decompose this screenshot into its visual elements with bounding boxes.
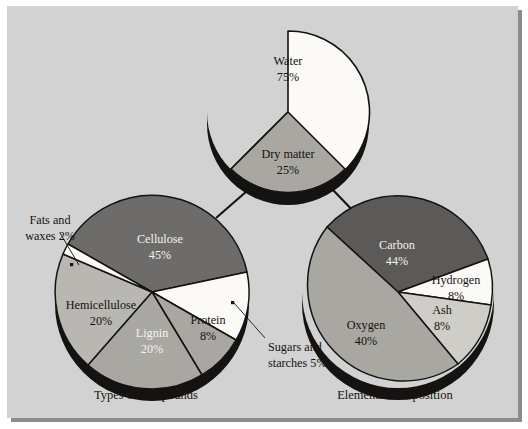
- pie-elemental-composition: Carbon 44% Hydrogen 8% Ash 8% Oxygen 40%: [302, 196, 494, 400]
- caption-left: Types of compounds: [94, 388, 198, 402]
- pie-diagram-canvas: Water 75% Dry matter 25% Cellulose 45% H…: [0, 0, 528, 429]
- label-hemicellulose-pct: 20%: [90, 314, 112, 328]
- label-hydrogen-name: Hydrogen: [432, 273, 481, 287]
- connector-top-to-left: [216, 191, 247, 218]
- label-cellulose-name: Cellulose: [137, 232, 183, 246]
- label-carbon-pct: 44%: [386, 254, 408, 268]
- label-drymatter-name: Dry matter: [261, 147, 314, 161]
- callout-fats-line2: waxes 2%: [25, 229, 75, 243]
- figure-root: Water 75% Dry matter 25% Cellulose 45% H…: [0, 0, 528, 429]
- label-cellulose-pct: 45%: [149, 248, 171, 262]
- pie-biomass-composition: Water 75% Dry matter 25%: [207, 31, 370, 205]
- callout-sugars-line2: starches 5%: [268, 356, 327, 370]
- label-drymatter-pct: 25%: [277, 163, 299, 177]
- label-oxygen-pct: 40%: [355, 334, 377, 348]
- caption-right: Elemental composition: [337, 388, 453, 402]
- label-ash-pct: 8%: [434, 319, 450, 333]
- callout-fats-line1: Fats and: [30, 213, 71, 227]
- label-carbon-name: Carbon: [379, 238, 415, 252]
- label-hydrogen-pct: 8%: [448, 289, 464, 303]
- pie-types-of-compounds: Cellulose 45% Hemicellulose 20% Lignin 2…: [55, 195, 249, 401]
- callout-dot-sugars: [231, 301, 234, 304]
- label-hemicellulose-name: Hemicellulose: [66, 298, 136, 312]
- label-lignin-name: Lignin: [136, 326, 169, 340]
- label-lignin-pct: 20%: [141, 342, 163, 356]
- callout-dot-fats: [70, 263, 73, 266]
- label-protein-pct: 8%: [200, 329, 216, 343]
- label-oxygen-name: Oxygen: [347, 318, 386, 332]
- label-protein-name: Protein: [190, 313, 225, 327]
- label-water-pct: 75%: [277, 70, 299, 84]
- label-water-name: Water: [274, 54, 303, 68]
- callout-sugars-line1: Sugars and: [268, 340, 322, 354]
- label-ash-name: Ash: [432, 303, 452, 317]
